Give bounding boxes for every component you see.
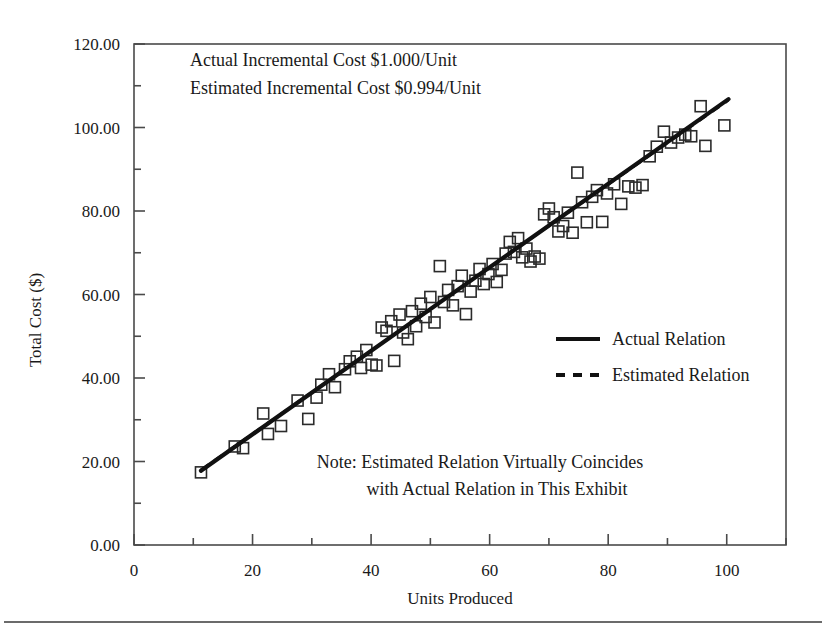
- scatter-point-group: [195, 101, 729, 478]
- scatter-point: [719, 120, 730, 131]
- scatter-point: [616, 198, 627, 209]
- scatter-point: [597, 216, 608, 227]
- y-tick-label: 40.00: [82, 369, 120, 388]
- legend-label-actual-relation: Actual Relation: [612, 329, 725, 349]
- y-tick-label: 120.00: [73, 35, 120, 54]
- scatter-point: [637, 180, 648, 191]
- scatter-point: [572, 167, 583, 178]
- scatter-point: [700, 140, 711, 151]
- y-axis-tick-labels: 0.0020.0040.0060.0080.00100.00120.00: [73, 35, 120, 555]
- x-tick-label: 60: [481, 561, 498, 580]
- y-tick-label: 20.00: [82, 453, 120, 472]
- scatter-chart-svg: 0.0020.0040.0060.0080.00100.00120.00 020…: [0, 0, 826, 637]
- y-tick-label: 100.00: [73, 119, 120, 138]
- y-tick-label: 60.00: [82, 286, 120, 305]
- estimated-cost-annotation: Estimated Incremental Cost $0.994/Unit: [190, 78, 481, 98]
- x-axis-title: Units Produced: [407, 589, 513, 608]
- chart-legend: Actual Relation Estimated Relation: [556, 329, 749, 385]
- scatter-point: [258, 408, 269, 419]
- scatter-point: [513, 233, 524, 244]
- legend-label-estimated-relation: Estimated Relation: [612, 365, 749, 385]
- note-line-1: Note: Estimated Relation Virtually Coinc…: [317, 452, 644, 472]
- y-axis-title: Total Cost ($): [26, 273, 45, 367]
- note-block: Note: Estimated Relation Virtually Coinc…: [317, 452, 644, 499]
- scatter-point: [276, 421, 287, 432]
- scatter-point: [465, 286, 476, 297]
- x-tick-label: 80: [600, 561, 617, 580]
- scatter-point: [456, 270, 467, 281]
- y-tick-label: 0.00: [90, 536, 120, 555]
- scatter-point: [389, 355, 400, 366]
- scatter-point: [329, 382, 340, 393]
- scatter-point: [434, 261, 445, 272]
- y-axis-ticks: [134, 44, 145, 545]
- scatter-point: [262, 428, 273, 439]
- x-tick-label: 100: [714, 561, 740, 580]
- actual-cost-annotation: Actual Incremental Cost $1.000/Unit: [190, 50, 457, 70]
- x-tick-label: 40: [363, 561, 380, 580]
- scatter-point: [460, 309, 471, 320]
- scatter-point: [491, 276, 502, 287]
- x-tick-label: 20: [244, 561, 261, 580]
- cost-annotation-block: Actual Incremental Cost $1.000/Unit Esti…: [190, 50, 481, 98]
- scatter-point: [658, 126, 669, 137]
- note-line-2: with Actual Relation in This Exhibit: [366, 479, 627, 499]
- scatter-point: [394, 309, 405, 320]
- scatter-point: [356, 362, 367, 373]
- scatter-point: [695, 101, 706, 112]
- y-tick-label: 80.00: [82, 202, 120, 221]
- actual-relation-line: [201, 99, 729, 471]
- x-axis-tick-labels: 020406080100: [130, 561, 740, 580]
- scatter-point: [303, 413, 314, 424]
- scatter-point: [581, 217, 592, 228]
- x-axis-ticks: [134, 534, 786, 545]
- x-tick-label: 0: [130, 561, 139, 580]
- chart-figure: 0.0020.0040.0060.0080.00100.00120.00 020…: [0, 0, 826, 637]
